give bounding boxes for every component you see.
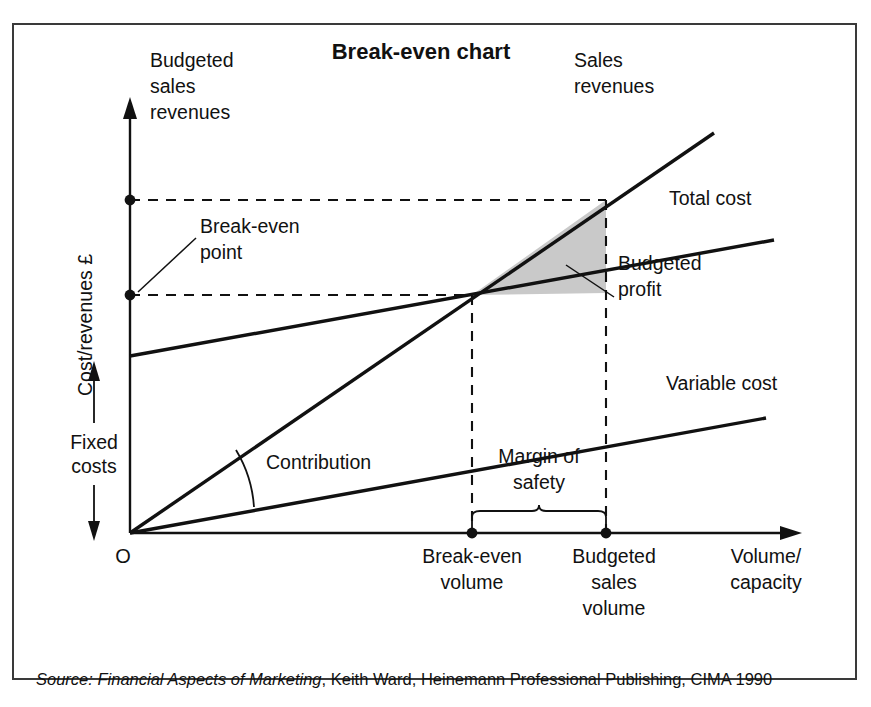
source-rest: , Keith Ward, Heinemann Professional Pub… [322,670,773,688]
contribution-label: Contribution [266,451,371,473]
source-prefix: Source: [36,670,93,688]
fixed-costs-arrow-down-icon [88,521,100,541]
source-work-title: Financial Aspects of Marketing [97,670,321,688]
budgeted-sales-revenues-label-line2: sales [150,75,196,97]
series-label-variable-cost: Variable cost [666,372,778,394]
x-tick-budgeted-sales-volume-line2: sales [591,571,637,593]
series-label-sales-revenues-line1: Sales [574,49,623,71]
x-tick-break-even-volume-line1: Break-even [422,545,522,567]
series-line-sales-revenues [130,133,714,533]
chart-title: Break-even chart [332,39,511,64]
margin-of-safety-label-line1: Margin of [498,445,580,467]
x-tick-break-even-volume-line2: volume [441,571,504,593]
budgeted-profit-label-line2: profit [618,278,662,300]
x-axis-title-line1: Volume/ [731,545,802,567]
series-label-sales-revenues-line2: revenues [574,75,654,97]
x-axis-arrow-icon [780,526,802,540]
margin-of-safety-label-line2: safety [513,471,565,493]
x-axis-title-line2: capacity [730,571,802,593]
marker-budgeted-sales-volume[interactable] [601,528,612,539]
series-line-variable-cost [130,418,766,533]
budgeted-profit-label-line1: Budgeted [618,252,702,274]
origin-label: O [115,545,131,567]
marker-budgeted-sales-revenues[interactable] [125,195,136,206]
figure-frame: Break-even chart Cost/revenues £ [12,23,857,680]
break-even-point-label-line2: point [200,241,243,263]
break-even-chart: Break-even chart Cost/revenues £ [14,25,855,678]
x-tick-budgeted-sales-volume-line1: Budgeted [572,545,656,567]
budgeted-sales-revenues-label-line3: revenues [150,101,230,123]
y-axis-arrow-icon [123,97,137,119]
series-label-total-cost: Total cost [669,187,752,209]
fixed-costs-label-line1: Fixed [70,431,118,453]
break-even-point-label-line1: Break-even [200,215,300,237]
budgeted-sales-revenues-label-line1: Budgeted [150,49,234,71]
fixed-costs-label-line2: costs [71,455,117,477]
margin-of-safety-brace [472,505,606,528]
marker-break-even-point[interactable] [125,290,136,301]
x-tick-budgeted-sales-volume-line3: volume [583,597,646,619]
source-note: Source: Financial Aspects of Marketing, … [36,669,846,689]
break-even-point-leader-line [138,238,196,292]
marker-break-even-volume[interactable] [467,528,478,539]
